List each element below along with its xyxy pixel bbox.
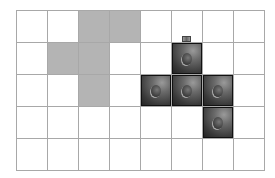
shaded-cell: [109, 10, 140, 42]
grid-cell: [109, 42, 140, 74]
grid-cell: [202, 106, 233, 138]
grid-cell: [233, 10, 264, 42]
grid-cell: [202, 138, 233, 170]
grid-cell: [47, 74, 78, 106]
shaded-cell: [78, 74, 109, 106]
grid-cell: [47, 138, 78, 170]
grid-cell: [78, 106, 109, 138]
grid-cell: [171, 138, 202, 170]
shaded-cell: [47, 42, 78, 74]
peg-hole-icon: [213, 85, 223, 97]
peg-hole-icon: [182, 85, 192, 97]
grid-cell: [233, 42, 264, 74]
grid-cell: [171, 42, 202, 74]
grid-cell: [16, 74, 47, 106]
grid-cell: [140, 138, 171, 170]
grid-cell: [16, 10, 47, 42]
peg-hole-icon: [213, 117, 223, 129]
peg-hole-icon: [151, 85, 161, 97]
grid-cell: [47, 106, 78, 138]
grid-cell: [109, 138, 140, 170]
cube-face: [141, 75, 171, 106]
shaded-cell: [78, 42, 109, 74]
grid-cell: [16, 106, 47, 138]
grid-cell: [140, 74, 171, 106]
cube-face: [172, 75, 202, 106]
grid-cell: [47, 10, 78, 42]
grid-cell: [202, 10, 233, 42]
grid-cell: [109, 106, 140, 138]
grid-cell: [233, 106, 264, 138]
grid-cell: [140, 42, 171, 74]
cube-face: [203, 107, 233, 138]
grid-cell: [233, 138, 264, 170]
grid-cell: [171, 106, 202, 138]
cube-face: [203, 75, 233, 106]
grid-cell: [16, 138, 47, 170]
puzzle-grid: [16, 10, 265, 171]
grid-cell: [140, 10, 171, 42]
grid-cell: [233, 74, 264, 106]
grid-cell: [78, 138, 109, 170]
peg-hole-icon: [182, 53, 192, 65]
grid-cell: [16, 42, 47, 74]
shaded-cell: [78, 10, 109, 42]
grid-cell: [171, 74, 202, 106]
grid-cell: [202, 74, 233, 106]
cube-face: [172, 43, 202, 74]
grid-cell: [140, 106, 171, 138]
cube-tab-icon: [182, 36, 191, 42]
grid-cell: [109, 74, 140, 106]
grid-cell: [202, 42, 233, 74]
